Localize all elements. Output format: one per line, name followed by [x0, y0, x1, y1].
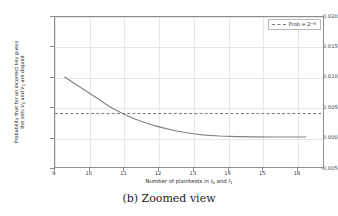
- legend-label-prob-threshold: Prob = 2−8: [289, 22, 316, 27]
- x-axis-label: Number of plaintexts in I0 and I1: [54, 179, 324, 185]
- series-line-disjointness: [65, 77, 306, 137]
- x-tick-mark: [228, 168, 229, 172]
- chart-series-svg: [55, 17, 323, 167]
- x-tick-mark: [193, 168, 194, 172]
- x-tick-mark: [158, 168, 159, 172]
- y-axis-label-text: Probability that for an incorrect key gu…: [13, 41, 26, 143]
- x-tick-mark: [123, 168, 124, 172]
- x-tick-mark: [297, 168, 298, 172]
- legend: Prob = 2−8: [268, 19, 321, 30]
- y-axis-label: Probability that for an incorrect key gu…: [13, 16, 27, 168]
- figure-caption: (b) Zoomed view: [0, 192, 338, 205]
- figure-zoomed-view: 0.020 0.015 0.010 0.005 0.000 -0.005 9 1…: [0, 0, 338, 216]
- legend-swatch-dashed: [272, 24, 286, 25]
- x-tick-mark: [262, 168, 263, 172]
- plot-area: Prob = 2−8: [54, 16, 324, 168]
- x-tick-mark: [54, 168, 55, 172]
- x-tick-mark: [89, 168, 90, 172]
